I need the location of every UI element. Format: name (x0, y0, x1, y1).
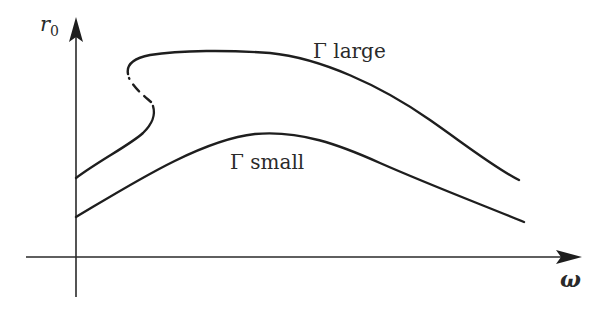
y-axis-label: r0 (40, 12, 59, 39)
curve-gamma-large-upper-branch (128, 51, 519, 180)
x-axis-label: ω (560, 266, 581, 292)
y-axis-label-subscript: 0 (50, 23, 59, 39)
curve-label-gamma-large: Γ large (313, 39, 386, 63)
y-axis-label-main: r (40, 12, 50, 36)
curve-gamma-small (76, 133, 524, 222)
curve-gamma-large-unstable-branch (129, 78, 151, 102)
curve-label-gamma-small: Γ small (230, 150, 304, 174)
response-diagram: r0 ω Γ large Γ small (0, 0, 608, 309)
curve-gamma-large-lower-branch (76, 106, 154, 178)
